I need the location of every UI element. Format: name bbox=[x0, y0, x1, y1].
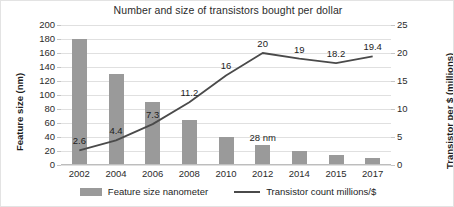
y-axis-right-title: Transistor per $ (millions) bbox=[444, 53, 454, 169]
x-axis-tick-label: 2008 bbox=[169, 169, 209, 179]
y-axis-right-tick-label: 20 bbox=[397, 48, 421, 58]
y-axis-left-tick-label: 80 bbox=[27, 104, 55, 114]
line-data-label: 11.2 bbox=[169, 88, 209, 98]
tick-mark bbox=[391, 109, 395, 110]
transistor-chart: Number and size of transistors bought pe… bbox=[0, 0, 454, 207]
tick-mark bbox=[391, 165, 395, 166]
bar-data-label: 28 nm bbox=[240, 133, 286, 143]
line-data-label: 18.2 bbox=[316, 49, 356, 59]
plot-area bbox=[61, 25, 391, 165]
y-axis-left-tick-label: 20 bbox=[27, 146, 55, 156]
y-axis-left-tick-label: 180 bbox=[27, 34, 55, 44]
tick-mark bbox=[391, 25, 395, 26]
y-axis-left-tick-label: 60 bbox=[27, 118, 55, 128]
x-axis-tick-label: 2002 bbox=[59, 169, 99, 179]
legend-item-transistor-count: Transistor count millions/$ bbox=[234, 186, 376, 197]
y-axis-left-tick-label: 0 bbox=[27, 160, 55, 170]
y-axis-left-tick-label: 120 bbox=[27, 76, 55, 86]
line-data-label: 2.6 bbox=[59, 136, 99, 146]
line-series bbox=[61, 25, 391, 165]
y-axis-left-tick-label: 200 bbox=[27, 20, 55, 30]
y-axis-left-tick-label: 140 bbox=[27, 62, 55, 72]
y-axis-right-tick-label: 10 bbox=[397, 104, 421, 114]
x-axis-tick-label: 2012 bbox=[243, 169, 283, 179]
tick-mark bbox=[391, 137, 395, 138]
x-axis-tick-label: 2015 bbox=[316, 169, 356, 179]
tick-mark bbox=[391, 53, 395, 54]
x-axis-line bbox=[61, 164, 391, 165]
legend-label-feature-size: Feature size nanometer bbox=[108, 186, 208, 197]
x-axis-tick-label: 2014 bbox=[279, 169, 319, 179]
x-axis-tick-label: 2010 bbox=[206, 169, 246, 179]
y-axis-left-tick-label: 40 bbox=[27, 132, 55, 142]
line-data-label: 19 bbox=[279, 45, 319, 55]
line-data-label: 4.4 bbox=[96, 126, 136, 136]
legend-label-transistor-count: Transistor count millions/$ bbox=[266, 186, 376, 197]
x-axis-tick-label: 2006 bbox=[133, 169, 173, 179]
y-axis-left-title: Feature size (nm) bbox=[14, 73, 25, 151]
y-axis-left-tick-label: 100 bbox=[27, 90, 55, 100]
chart-legend: Feature size nanometer Transistor count … bbox=[1, 186, 454, 197]
line-data-label: 19.4 bbox=[353, 42, 393, 52]
y-axis-right-tick-label: 5 bbox=[397, 132, 421, 142]
chart-title: Number and size of transistors bought pe… bbox=[1, 4, 454, 16]
line-data-label: 20 bbox=[243, 39, 283, 49]
gridline bbox=[61, 165, 391, 166]
y-axis-right-tick-label: 25 bbox=[397, 20, 421, 30]
legend-item-feature-size: Feature size nanometer bbox=[80, 186, 208, 197]
line-swatch-icon bbox=[234, 191, 260, 193]
line-data-label: 7.3 bbox=[133, 110, 173, 120]
bar-swatch-icon bbox=[80, 188, 102, 196]
line-data-label: 16 bbox=[206, 61, 246, 71]
x-axis-tick-label: 2004 bbox=[96, 169, 136, 179]
tick-mark bbox=[391, 81, 395, 82]
y-axis-right-tick-label: 15 bbox=[397, 76, 421, 86]
y-axis-left-tick-label: 160 bbox=[27, 48, 55, 58]
y-axis-right-tick-label: 0 bbox=[397, 160, 421, 170]
tick-mark bbox=[57, 165, 61, 166]
x-axis-tick-label: 2017 bbox=[353, 169, 393, 179]
